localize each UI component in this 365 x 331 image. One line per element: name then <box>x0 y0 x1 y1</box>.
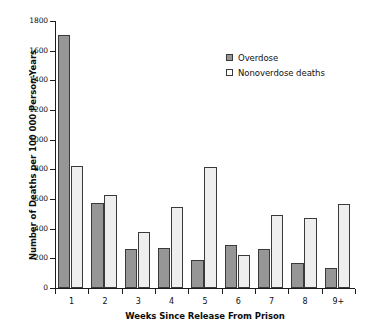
bar-nonoverdose-week-3 <box>138 232 151 288</box>
x-tick-label-9+: 9+ <box>321 297 355 306</box>
legend-swatch-nonoverdose-icon <box>226 69 233 76</box>
bar-overdose-week-9+ <box>325 268 338 288</box>
bar-overdose-week-6 <box>225 245 238 288</box>
x-tick <box>255 289 256 294</box>
x-tick <box>188 289 189 294</box>
x-tick <box>88 289 89 294</box>
x-tick <box>222 289 223 294</box>
bar-chart-figure: 020040060080010001200140016001800 123456… <box>0 0 365 331</box>
bar-nonoverdose-week-4 <box>171 207 184 288</box>
bar-overdose-week-7 <box>258 249 271 288</box>
x-axis-title: Weeks Since Release From Prison <box>55 311 355 321</box>
x-tick <box>155 289 156 294</box>
legend-label-nonoverdose: Nonoverdose deaths <box>238 68 325 78</box>
bar-nonoverdose-week-9+ <box>338 204 351 288</box>
x-tick <box>55 289 56 294</box>
legend-swatch-overdose-icon <box>226 54 233 61</box>
bar-nonoverdose-week-7 <box>271 215 284 288</box>
x-tick <box>355 289 356 294</box>
x-tick <box>122 289 123 294</box>
x-tick-label-8: 8 <box>288 297 322 306</box>
bar-nonoverdose-week-8 <box>304 218 317 288</box>
y-tick-label: 1800 <box>8 17 48 25</box>
bar-overdose-week-5 <box>191 260 204 288</box>
legend-item-nonoverdose: Nonoverdose deaths <box>226 65 325 80</box>
bar-overdose-week-1 <box>58 35 71 288</box>
x-tick-label-6: 6 <box>221 297 255 306</box>
bar-nonoverdose-week-2 <box>104 195 117 288</box>
bar-nonoverdose-week-5 <box>204 167 217 288</box>
x-tick-label-7: 7 <box>255 297 289 306</box>
x-tick-label-3: 3 <box>121 297 155 306</box>
bar-overdose-week-8 <box>291 263 304 288</box>
x-tick <box>322 289 323 294</box>
bar-overdose-week-4 <box>158 248 171 288</box>
bar-overdose-week-3 <box>125 249 138 288</box>
y-axis-title: Number of Deaths per 100 000 Person-Year… <box>28 30 38 280</box>
legend-item-overdose: Overdose <box>226 50 325 65</box>
bar-overdose-week-2 <box>91 203 104 288</box>
chart-legend: Overdose Nonoverdose deaths <box>226 50 325 80</box>
x-axis-line <box>55 288 355 289</box>
x-tick-label-2: 2 <box>88 297 122 306</box>
y-tick-label: 0 <box>8 284 48 292</box>
x-tick-label-5: 5 <box>188 297 222 306</box>
x-tick <box>288 289 289 294</box>
x-tick-label-4: 4 <box>155 297 189 306</box>
x-tick-label-1: 1 <box>55 297 89 306</box>
bar-nonoverdose-week-6 <box>238 255 251 288</box>
bar-nonoverdose-week-1 <box>71 166 84 288</box>
legend-label-overdose: Overdose <box>238 53 278 63</box>
